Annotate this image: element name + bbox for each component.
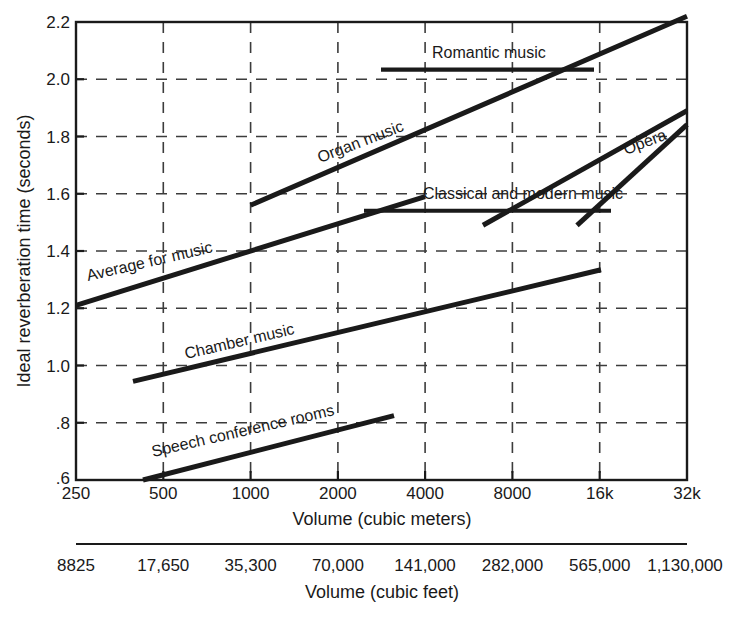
x-tick-label-ft-8825: 8825 xyxy=(57,556,95,575)
x-tick-label-ft-70000: 70,000 xyxy=(312,556,364,575)
x-tick-label-1000: 1000 xyxy=(232,484,270,503)
reverberation-time-chart: Romantic music Organ music Opera Classic… xyxy=(0,0,730,619)
x-axis-title-meters: Volume (cubic meters) xyxy=(292,509,471,529)
x-tick-label-ft-1130000: 1,130,000 xyxy=(647,556,723,575)
x-tick-label-250: 250 xyxy=(62,484,90,503)
x-tick-label-ft-282000: 282,000 xyxy=(482,556,543,575)
x-tick-label-8000: 8000 xyxy=(493,484,531,503)
y-tick-label-1.4: 1.4 xyxy=(46,242,70,261)
y-tick-label-1.2: 1.2 xyxy=(46,299,70,318)
y-tick-label-2.2: 2.2 xyxy=(46,13,70,32)
x-tick-label-ft-141000: 141,000 xyxy=(394,556,455,575)
x-axis-tick-labels: 250 500 1000 2000 4000 8000 16k 32k xyxy=(62,484,701,503)
x-tick-label-4000: 4000 xyxy=(406,484,444,503)
y-axis-title: Ideal reverberation time (seconds) xyxy=(14,114,34,387)
x-axis-title-feet: Volume (cubic feet) xyxy=(305,582,459,602)
y-tick-label-0.8: .8 xyxy=(56,414,70,433)
x-axis-tick-labels-secondary: 8825 17,650 35,300 70,000 141,000 282,00… xyxy=(57,556,723,575)
x-tick-label-2000: 2000 xyxy=(319,484,357,503)
chart-canvas: Romantic music Organ music Opera Classic… xyxy=(0,0,730,619)
y-tick-label-1.8: 1.8 xyxy=(46,128,70,147)
y-axis-tick-labels: 2.2 2.0 1.8 1.6 1.4 1.2 1.0 .8 .6 xyxy=(46,13,70,488)
y-tick-label-2.0: 2.0 xyxy=(46,70,70,89)
x-tick-label-32k: 32k xyxy=(673,484,701,503)
y-tick-label-1.0: 1.0 xyxy=(46,357,70,376)
x-tick-label-ft-17650: 17,650 xyxy=(137,556,189,575)
x-tick-label-ft-565000: 565,000 xyxy=(569,556,630,575)
y-tick-label-1.6: 1.6 xyxy=(46,185,70,204)
series-label-romantic-music: Romantic music xyxy=(432,44,546,61)
x-tick-label-ft-35300: 35,300 xyxy=(225,556,277,575)
series-label-classical-and-modern-music: Classical and modern music xyxy=(423,185,623,202)
x-tick-label-500: 500 xyxy=(149,484,177,503)
x-tick-label-16k: 16k xyxy=(586,484,614,503)
